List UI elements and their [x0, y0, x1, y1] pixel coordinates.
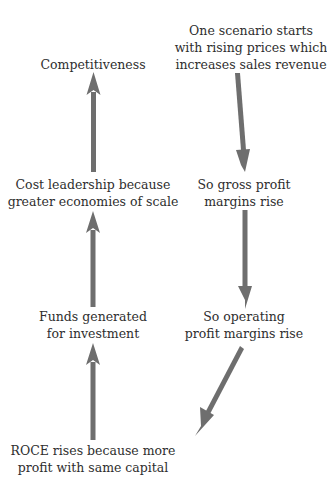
arrow-operating-to-roce [195, 346, 244, 436]
node-roce-line-2: profit with same capital [11, 459, 176, 476]
node-funds: Funds generated for investment [39, 308, 147, 342]
arrow-funds-to-cost [86, 211, 100, 307]
node-roce: ROCE rises because more profit with same… [11, 442, 176, 476]
arrow-start-to-gross [235, 73, 250, 172]
node-operating-profit: So operating profit margins rise [185, 308, 303, 342]
arrow-roce-to-funds [86, 343, 100, 440]
node-gross-profit: So gross profit margins rise [197, 176, 290, 210]
node-funds-line-1: Funds generated [39, 308, 147, 325]
node-gross-line-2: margins rise [197, 193, 290, 210]
arrow-gross-to-operating [238, 210, 252, 309]
node-cost-leadership: Cost leadership because greater economie… [8, 176, 179, 210]
node-funds-line-2: for investment [39, 325, 147, 342]
node-operating-line-1: So operating [185, 308, 303, 325]
node-cost-line-1: Cost leadership because [8, 176, 179, 193]
node-competitiveness: Competitiveness [40, 56, 145, 73]
node-operating-line-2: profit margins rise [185, 325, 303, 342]
node-start-line-3: increases sales revenue [175, 56, 327, 73]
node-gross-line-1: So gross profit [197, 176, 290, 193]
node-roce-line-1: ROCE rises because more [11, 442, 176, 459]
node-competitiveness-line-1: Competitiveness [40, 56, 145, 73]
arrow-cost-to-competitiveness [87, 72, 101, 172]
node-start-line-2: with rising prices which [175, 39, 327, 56]
node-start-line-1: One scenario starts [175, 22, 327, 39]
node-cost-line-2: greater economies of scale [8, 193, 179, 210]
node-start: One scenario starts with rising prices w… [175, 22, 327, 73]
